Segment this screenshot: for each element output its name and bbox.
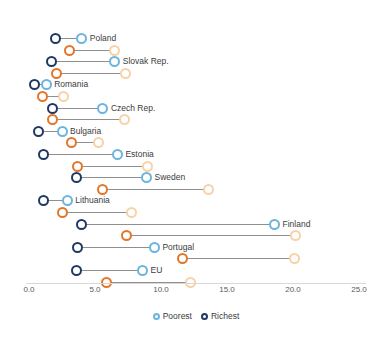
legend-marker-richest-icon: [201, 313, 208, 320]
data-point-poorest-blue[interactable]: [57, 126, 68, 137]
data-point-richest-orange[interactable]: [51, 68, 62, 79]
dumbbell-chart: PolandSlovak Rep.RomaniaCzech Rep.Bulgar…: [0, 0, 392, 341]
series-label-estonia: Estonia: [125, 149, 153, 160]
series-label-sweden: Sweden: [154, 172, 185, 183]
x-tick-label: 10.0: [153, 285, 169, 294]
x-tick-label: 0.0: [23, 285, 34, 294]
series-label-czech-rep: Czech Rep.: [111, 103, 155, 114]
data-point-poorest-orange[interactable]: [119, 114, 130, 125]
data-point-poorest-orange[interactable]: [290, 230, 301, 241]
series-label-slovak-rep: Slovak Rep.: [123, 56, 169, 67]
connector-line-orange: [70, 50, 115, 51]
connector-line-blue: [77, 270, 143, 271]
data-point-poorest-orange[interactable]: [58, 91, 69, 102]
data-point-poorest-blue[interactable]: [62, 195, 73, 206]
data-point-richest-orange[interactable]: [97, 184, 108, 195]
legend-label-poorest: Poorest: [163, 311, 192, 321]
data-point-poorest-blue[interactable]: [269, 219, 280, 230]
connector-line-blue: [82, 224, 275, 225]
data-point-richest-orange[interactable]: [66, 137, 77, 148]
data-point-richest-orange[interactable]: [177, 253, 188, 264]
data-point-poorest-orange[interactable]: [126, 207, 137, 218]
data-point-poorest-blue[interactable]: [141, 172, 152, 183]
data-point-poorest-orange[interactable]: [185, 277, 196, 288]
series-label-lithuania: Lithuania: [75, 195, 110, 206]
x-tick-label: 20.0: [285, 285, 301, 294]
connector-line-orange: [127, 235, 296, 236]
data-point-poorest-blue[interactable]: [76, 33, 87, 44]
legend-item-richest[interactable]: Richest: [201, 311, 239, 321]
data-point-poorest-orange[interactable]: [203, 184, 214, 195]
connector-line-orange: [62, 212, 132, 213]
plot-area: PolandSlovak Rep.RomaniaCzech Rep.Bulgar…: [0, 0, 392, 341]
data-point-poorest-blue[interactable]: [41, 79, 52, 90]
connector-line-orange: [57, 73, 126, 74]
data-point-poorest-orange[interactable]: [109, 45, 120, 56]
data-point-richest-orange[interactable]: [37, 91, 48, 102]
series-label-bulgaria: Bulgaria: [70, 126, 101, 137]
data-point-poorest-orange[interactable]: [142, 161, 153, 172]
data-point-richest-orange[interactable]: [121, 230, 132, 241]
data-point-richest-orange[interactable]: [72, 161, 83, 172]
series-label-eu: EU: [151, 265, 163, 276]
data-point-poorest-orange[interactable]: [289, 253, 300, 264]
legend-marker-poorest-icon: [153, 313, 160, 320]
connector-line-orange: [103, 189, 209, 190]
data-point-richest-blue[interactable]: [46, 56, 57, 67]
x-axis-line: [26, 283, 366, 284]
data-point-richest-blue[interactable]: [33, 126, 44, 137]
series-label-portugal: Portugal: [162, 242, 194, 253]
data-point-richest-blue[interactable]: [72, 242, 83, 253]
data-point-poorest-orange[interactable]: [93, 137, 104, 148]
legend-item-poorest[interactable]: Poorest: [153, 311, 192, 321]
series-label-poland: Poland: [90, 33, 116, 44]
series-label-finland: Finland: [283, 219, 311, 230]
data-point-poorest-blue[interactable]: [109, 56, 120, 67]
x-tick-label: 25.0: [351, 285, 367, 294]
data-point-richest-blue[interactable]: [76, 219, 87, 230]
connector-line-blue: [53, 108, 103, 109]
connector-line-blue: [77, 177, 147, 178]
series-label-romania: Romania: [54, 79, 88, 90]
data-point-richest-blue[interactable]: [47, 103, 58, 114]
data-point-richest-orange[interactable]: [57, 207, 68, 218]
connector-line-orange: [78, 166, 148, 167]
connector-line-blue: [51, 61, 114, 62]
data-point-richest-blue[interactable]: [29, 79, 40, 90]
connector-line-orange: [53, 119, 124, 120]
chart-legend: Poorest Richest: [0, 311, 392, 321]
connector-line-orange: [182, 258, 294, 259]
data-point-richest-blue[interactable]: [38, 149, 49, 160]
x-tick-label: 15.0: [219, 285, 235, 294]
data-point-poorest-blue[interactable]: [149, 242, 160, 253]
data-point-richest-orange[interactable]: [47, 114, 58, 125]
x-tick-label: 5.0: [89, 285, 100, 294]
data-point-richest-orange[interactable]: [64, 45, 75, 56]
data-point-poorest-orange[interactable]: [120, 68, 131, 79]
connector-line-blue: [44, 154, 118, 155]
connector-line-blue: [78, 247, 155, 248]
data-point-poorest-blue[interactable]: [137, 265, 148, 276]
data-point-richest-blue[interactable]: [38, 195, 49, 206]
data-point-richest-blue[interactable]: [71, 172, 82, 183]
data-point-poorest-blue[interactable]: [112, 149, 123, 160]
data-point-richest-orange[interactable]: [101, 277, 112, 288]
data-point-poorest-blue[interactable]: [97, 103, 108, 114]
legend-label-richest: Richest: [211, 311, 239, 321]
data-point-richest-blue[interactable]: [50, 33, 61, 44]
data-point-richest-blue[interactable]: [71, 265, 82, 276]
